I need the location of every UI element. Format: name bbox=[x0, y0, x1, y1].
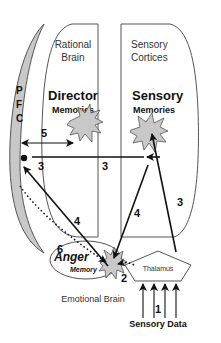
pathway-label-2: 2 bbox=[121, 272, 127, 284]
anger-memory-sub: Memory bbox=[70, 266, 98, 274]
pathway-label-4-anger: 4 bbox=[74, 215, 81, 227]
pathway-label-3-sensory: 3 bbox=[102, 160, 108, 172]
director-memories-title: Director bbox=[48, 88, 98, 103]
rational-brain-title-2: Brain bbox=[61, 52, 84, 63]
sensory-cortices-title-1: Sensory bbox=[131, 39, 168, 50]
pathway-label-6: 6 bbox=[57, 243, 63, 255]
pfc-node-dot bbox=[21, 155, 27, 161]
pathway-label-3-thalamus: 3 bbox=[177, 196, 183, 208]
pathway-label-4-sensory: 4 bbox=[134, 207, 141, 219]
emotional-brain-label: Emotional Brain bbox=[61, 294, 125, 304]
brain-pathway-diagram: P F C Rational Brain Director Memories S… bbox=[0, 0, 221, 343]
rational-brain-title-1: Rational bbox=[55, 39, 92, 50]
sensory-memories-title: Sensory bbox=[132, 88, 184, 103]
pathway-label-3-director: 3 bbox=[38, 160, 44, 172]
sensory-data-label: Sensory Data bbox=[129, 319, 188, 329]
pfc-letter-f: F bbox=[16, 99, 22, 110]
pathway-label-1: 1 bbox=[155, 303, 161, 315]
sensory-memories-sub: Memories bbox=[133, 105, 175, 115]
thalamus: Thalamus bbox=[125, 251, 191, 281]
pfc-letter-c: C bbox=[16, 113, 23, 124]
pfc-letter-p: P bbox=[16, 85, 23, 96]
thalamus-label: Thalamus bbox=[143, 265, 174, 272]
sensory-cortices-title-2: Cortices bbox=[131, 52, 168, 63]
pfc-region: P F C bbox=[10, 24, 44, 253]
pathway-label-5: 5 bbox=[41, 127, 47, 139]
